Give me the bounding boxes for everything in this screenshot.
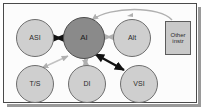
- node-asi[interactable]: ASI: [16, 19, 54, 57]
- node-ts[interactable]: T/S: [16, 65, 54, 103]
- edge-ai-vsi: [95, 54, 124, 70]
- node-ts-label: T/S: [30, 80, 41, 87]
- node-other-instr-label-line2: instr: [172, 38, 183, 44]
- node-vsi-label: VSI: [133, 80, 144, 87]
- node-other-instr[interactable]: Other instr: [165, 21, 191, 55]
- node-alt-label: Alt: [128, 34, 136, 41]
- instrument-scan-diagram: ASI AI Alt Other instr T/S DI VSI: [0, 0, 205, 111]
- node-asi-label: ASI: [29, 34, 40, 41]
- node-di[interactable]: DI: [68, 65, 106, 103]
- node-ai[interactable]: AI: [63, 17, 105, 59]
- edge-other-ai-midhead: [127, 13, 133, 17]
- edge-ai-ts: [42, 56, 68, 68]
- node-alt[interactable]: Alt: [113, 19, 151, 57]
- node-vsi[interactable]: VSI: [120, 65, 158, 103]
- node-ai-label: AI: [80, 34, 88, 42]
- node-di-label: DI: [84, 80, 91, 87]
